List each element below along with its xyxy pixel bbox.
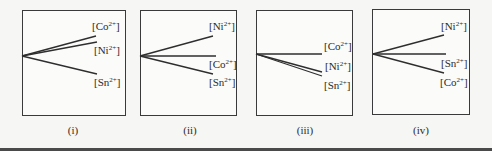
ion-charge: 2+ xyxy=(109,44,116,52)
ion-symbol: Sn xyxy=(328,79,340,91)
ion-charge: 2+ xyxy=(109,76,116,84)
ion-symbol: Co xyxy=(444,76,457,88)
panel-caption: (i) xyxy=(68,124,78,136)
panel-caption: (iii) xyxy=(297,124,314,136)
ion-charge: 2+ xyxy=(456,57,463,65)
ion-label-ni: [Ni2+] xyxy=(441,21,467,32)
ion-symbol: Ni xyxy=(445,20,456,32)
ion-charge: 2+ xyxy=(456,20,463,28)
ion-label-co: [Co2+] xyxy=(209,59,237,70)
ion-symbol: Sn xyxy=(213,76,225,88)
ion-symbol: Ni xyxy=(213,20,224,32)
ion-label-ni: [Ni2+] xyxy=(94,45,120,56)
ion-charge: 2+ xyxy=(339,79,346,87)
ion-label-ni: [Ni2+] xyxy=(209,21,235,32)
ion-charge: 2+ xyxy=(224,20,231,28)
ion-charge: 2+ xyxy=(341,40,348,48)
panel-caption: (ii) xyxy=(183,124,196,136)
ion-charge: 2+ xyxy=(226,58,233,66)
ion-symbol: Ni xyxy=(329,60,340,72)
ion-label-sn: [Sn2+] xyxy=(441,58,467,69)
ion-charge: 2+ xyxy=(224,76,231,84)
ion-symbol: Co xyxy=(213,58,226,70)
ion-symbol: Sn xyxy=(98,76,110,88)
ion-charge: 2+ xyxy=(340,60,347,68)
ion-label-sn: [Sn2+] xyxy=(209,77,235,88)
bottom-rule xyxy=(0,148,492,151)
ion-label-ni: [Ni2+] xyxy=(325,61,351,72)
panel-caption: (iv) xyxy=(413,124,429,136)
ion-label-co: [Co2+] xyxy=(92,21,120,32)
ion-label-co: [Co2+] xyxy=(440,77,468,88)
ion-charge: 2+ xyxy=(457,76,464,84)
ion-symbol: Sn xyxy=(445,57,457,69)
ion-label-sn: [Sn2+] xyxy=(324,80,350,91)
ion-symbol: Co xyxy=(328,40,341,52)
ion-charge: 2+ xyxy=(109,20,116,28)
ion-label-co: [Co2+] xyxy=(324,41,352,52)
ion-symbol: Co xyxy=(96,20,109,32)
ion-label-sn: [Sn2+] xyxy=(94,77,120,88)
ion-symbol: Ni xyxy=(98,44,109,56)
